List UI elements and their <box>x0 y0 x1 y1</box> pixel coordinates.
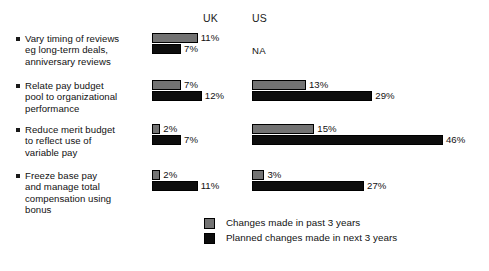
legend-label: Changes made in past 3 years <box>226 217 360 228</box>
bar-value-label: 7% <box>184 134 198 145</box>
value-not-available: NA <box>252 45 266 56</box>
category-label-line: Relate pay budget <box>25 80 147 91</box>
column-header-us: US <box>252 12 267 24</box>
bar-us-past[interactable] <box>252 124 314 134</box>
bullet-square-icon <box>16 174 20 178</box>
category-label-line: Freeze base pay <box>25 170 147 181</box>
category-label-line: Reduce merit budget <box>25 124 147 135</box>
bar-value-label: 12% <box>205 90 224 101</box>
bar-uk-next[interactable] <box>152 135 181 145</box>
category-label-line: pool to organizational <box>25 91 147 102</box>
bar-value-label: 13% <box>309 79 328 90</box>
category-label-line: to reflect use of <box>25 135 147 146</box>
bar-uk-past[interactable] <box>152 170 160 180</box>
bar-uk-next[interactable] <box>152 181 198 191</box>
category-label-line: performance <box>25 103 147 114</box>
bar-uk-past[interactable] <box>152 33 198 43</box>
category-label-line: anniversary reviews <box>25 56 147 67</box>
bar-uk-past[interactable] <box>152 124 160 134</box>
category-label: Freeze base payand manage totalcompensat… <box>25 170 147 216</box>
bar-value-label: 11% <box>201 180 220 191</box>
column-header-uk: UK <box>203 12 218 24</box>
category-label-line: variable pay <box>25 147 147 158</box>
category-label: Vary timing of reviewseg long-term deals… <box>25 33 147 67</box>
bar-uk-next[interactable] <box>152 44 181 54</box>
category-label-line: eg long-term deals, <box>25 44 147 55</box>
legend-label: Planned changes made in next 3 years <box>226 232 397 243</box>
legend-swatch <box>204 233 215 244</box>
bar-uk-next[interactable] <box>152 91 202 101</box>
bar-value-label: 46% <box>446 134 465 145</box>
bar-value-label: 3% <box>267 169 281 180</box>
bar-us-next[interactable] <box>252 135 443 145</box>
category-label-line: Vary timing of reviews <box>25 33 147 44</box>
bullet-square-icon <box>16 37 20 41</box>
bar-value-label: 2% <box>163 123 177 134</box>
bullet-square-icon <box>16 84 20 88</box>
bar-us-next[interactable] <box>252 181 364 191</box>
bar-value-label: 15% <box>317 123 336 134</box>
bar-uk-past[interactable] <box>152 80 181 90</box>
bar-us-past[interactable] <box>252 80 306 90</box>
category-label-line: bonus <box>25 204 147 215</box>
category-label-line: and manage total <box>25 181 147 192</box>
bar-value-label: 27% <box>367 180 386 191</box>
category-label: Relate pay budgetpool to organizationalp… <box>25 80 147 114</box>
bar-value-label: 7% <box>184 79 198 90</box>
legend-swatch <box>204 218 215 229</box>
bar-value-label: 29% <box>375 90 394 101</box>
bullet-square-icon <box>16 128 20 132</box>
category-label-line: compensation using <box>25 193 147 204</box>
bar-value-label: 11% <box>201 32 220 43</box>
bar-value-label: 7% <box>184 43 198 54</box>
bar-us-next[interactable] <box>252 91 372 101</box>
bar-value-label: 2% <box>163 169 177 180</box>
bar-us-past[interactable] <box>252 170 264 180</box>
grouped-bar-chart: UK US Vary timing of reviewseg long-term… <box>0 0 489 271</box>
category-label: Reduce merit budgetto reflect use ofvari… <box>25 124 147 158</box>
